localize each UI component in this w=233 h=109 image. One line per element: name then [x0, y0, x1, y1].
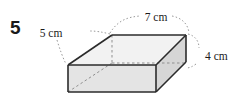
leader-line-depth-lower: [57, 40, 66, 64]
figure-page: 5: [0, 0, 233, 109]
rectangular-prism-figure: 7 cm 5 cm 4 cm: [0, 0, 233, 109]
leader-line-height-lower: [186, 64, 196, 68]
dimension-label-depth: 5 cm: [40, 27, 63, 39]
leader-line-length-right: [172, 16, 189, 33]
leader-line-depth-upper: [90, 31, 110, 34]
leader-line-height-upper: [188, 34, 199, 48]
prism-front-face: [68, 65, 156, 92]
dimension-label-height: 4 cm: [205, 50, 228, 62]
dimension-label-length: 7 cm: [145, 11, 168, 23]
leader-line-length-left: [110, 16, 140, 33]
